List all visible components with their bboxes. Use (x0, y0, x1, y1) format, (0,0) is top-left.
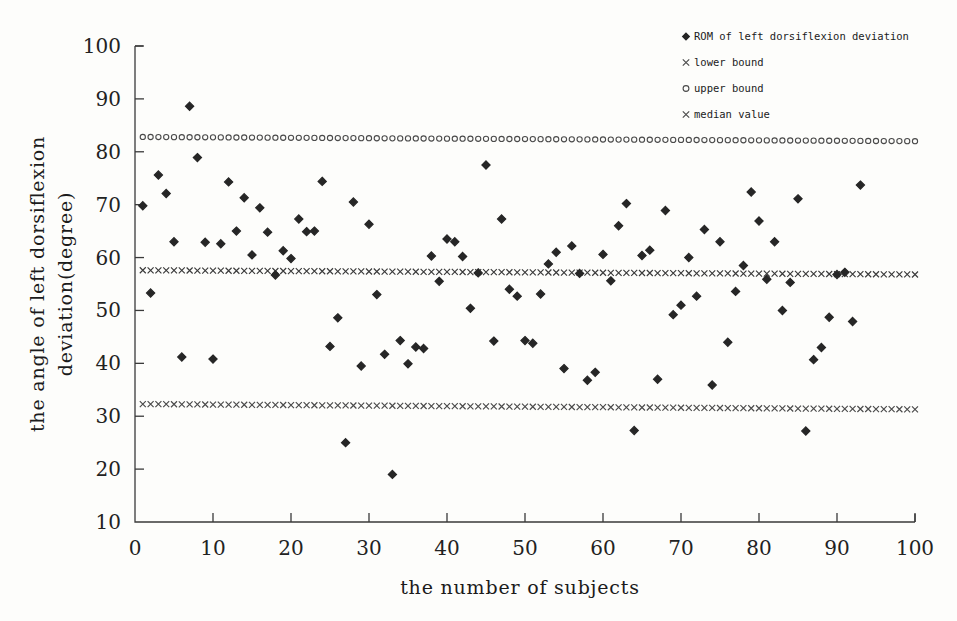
upper-bound-marker (624, 137, 629, 142)
median-value-marker (639, 270, 645, 276)
lower-bound-marker (639, 404, 645, 410)
data-point-marker (599, 250, 607, 258)
data-point-marker (505, 285, 513, 293)
legend-item[interactable]: median value (683, 108, 770, 120)
median-value-marker (616, 270, 622, 276)
lower-bound-marker (467, 403, 473, 409)
data-point-marker (334, 314, 342, 322)
lower-bound-marker (382, 403, 388, 409)
upper-bound-marker (530, 137, 535, 142)
data-point-marker (771, 238, 779, 246)
median-value-marker (226, 268, 232, 274)
lower-bound-marker (764, 405, 770, 411)
upper-bound-marker (585, 137, 590, 142)
legend-item[interactable]: ROM of left dorsiflexion deviation (683, 30, 909, 42)
legend-x-marker (683, 111, 689, 117)
upper-bound-marker (265, 135, 270, 140)
upper-bound-marker (187, 135, 192, 140)
data-point-marker (154, 171, 162, 179)
legend-item[interactable]: lower bound (683, 56, 764, 68)
y-tick-label: 90 (96, 87, 121, 111)
median-value-marker (366, 268, 372, 274)
upper-bound-marker (460, 136, 465, 141)
y-tick-label: 40 (96, 351, 121, 375)
lower-bound-marker (506, 404, 512, 410)
data-point-marker (459, 252, 467, 260)
lower-bound-marker (584, 404, 590, 410)
upper-bound-marker (632, 137, 637, 142)
upper-bound-line (140, 134, 917, 143)
legend-item[interactable]: upper bound (683, 82, 763, 94)
lower-bound-marker (803, 406, 809, 412)
median-value-marker (748, 271, 754, 277)
data-point-marker (786, 278, 794, 286)
upper-bound-marker (421, 136, 426, 141)
data-point-marker (256, 204, 264, 212)
y-tick-label: 100 (83, 34, 121, 58)
upper-bound-marker (499, 136, 504, 141)
data-point-marker (217, 240, 225, 248)
data-point-marker (287, 255, 295, 263)
median-value-marker (623, 270, 629, 276)
lower-bound-marker (662, 405, 668, 411)
lower-bound-marker (717, 405, 723, 411)
median-value-marker (163, 267, 169, 273)
x-tick-label: 10 (200, 536, 225, 560)
median-value-marker (397, 269, 403, 275)
rom-data-points (139, 102, 865, 478)
data-point-marker (349, 198, 357, 206)
lower-bound-marker (265, 402, 271, 408)
lower-bound-marker (569, 404, 575, 410)
lower-bound-marker (272, 402, 278, 408)
y-axis-label-line1: the angle of left dorsiflexion (26, 136, 48, 432)
upper-bound-marker (249, 135, 254, 140)
upper-bound-marker (663, 137, 668, 142)
lower-bound-marker (889, 406, 895, 412)
data-point-marker (435, 277, 443, 285)
data-point-marker (661, 206, 669, 214)
upper-bound-marker (881, 138, 886, 143)
upper-bound-marker (374, 136, 379, 141)
data-point-marker (646, 246, 654, 254)
lower-bound-marker (366, 403, 372, 409)
median-value-marker (179, 267, 185, 273)
upper-bound-marker (452, 136, 457, 141)
lower-bound-marker (288, 402, 294, 408)
lower-bound-marker (678, 405, 684, 411)
lower-bound-marker (795, 406, 801, 412)
median-value-marker (327, 268, 333, 274)
median-value-marker (514, 269, 520, 275)
upper-bound-marker (320, 135, 325, 140)
upper-bound-marker (905, 139, 910, 144)
data-point-marker (209, 355, 217, 363)
lower-bound-marker (896, 406, 902, 412)
data-point-marker (381, 350, 389, 358)
median-value-marker (865, 271, 871, 277)
lower-bound-marker (709, 405, 715, 411)
x-tick-label: 90 (824, 536, 849, 560)
data-point-marker (279, 247, 287, 255)
data-point-marker (693, 292, 701, 300)
upper-bound-marker (616, 137, 621, 142)
data-point-marker (162, 189, 170, 197)
data-point-marker (849, 317, 857, 325)
lower-bound-marker (553, 404, 559, 410)
data-point-marker (420, 344, 428, 352)
upper-bound-marker (554, 137, 559, 142)
median-value-marker (358, 268, 364, 274)
upper-bound-marker (683, 86, 689, 92)
data-point-marker (193, 153, 201, 161)
data-point-marker (669, 311, 677, 319)
upper-bound-marker (827, 138, 832, 143)
data-point-marker (654, 375, 662, 383)
upper-bound-marker (491, 136, 496, 141)
lower-bound-marker (756, 405, 762, 411)
data-point-marker (388, 470, 396, 478)
lower-bound-marker (842, 406, 848, 412)
data-point-marker (240, 194, 248, 202)
upper-bound-marker (834, 138, 839, 143)
median-value-marker (811, 271, 817, 277)
lower-bound-marker (296, 402, 302, 408)
lower-bound-marker (616, 404, 622, 410)
median-value-marker (561, 270, 567, 276)
